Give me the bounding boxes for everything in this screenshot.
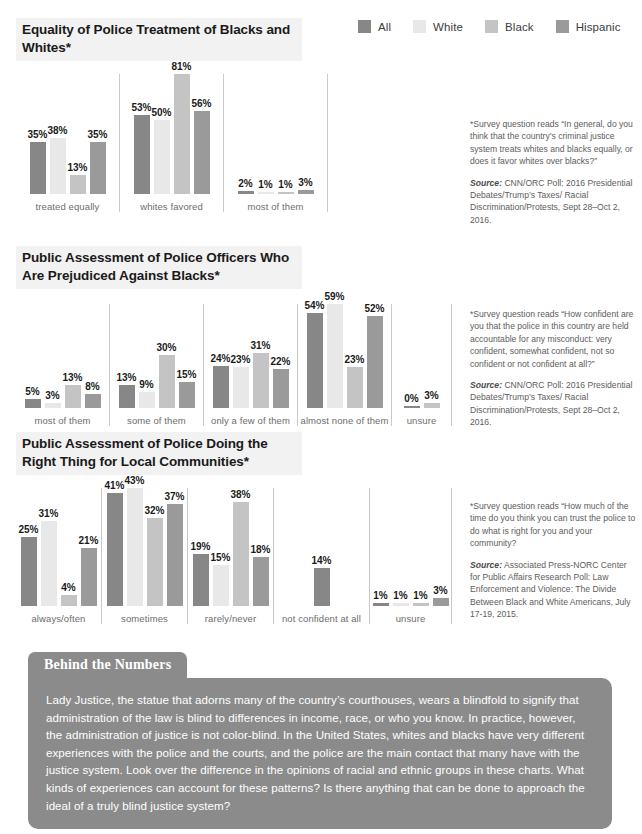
bar-black[interactable]: 23% bbox=[347, 355, 363, 408]
bar-rect[interactable] bbox=[213, 366, 229, 408]
bar-all[interactable]: 0% bbox=[404, 394, 420, 408]
bar-white[interactable]: 3% bbox=[45, 391, 61, 408]
bar-rect[interactable] bbox=[159, 355, 175, 408]
bar-rect[interactable] bbox=[367, 316, 383, 408]
bar-black[interactable]: 13% bbox=[65, 373, 81, 408]
bar-rect[interactable] bbox=[253, 353, 269, 408]
bar-rect[interactable] bbox=[30, 142, 46, 194]
bar-rect[interactable] bbox=[50, 138, 66, 194]
bar-rect[interactable] bbox=[41, 521, 57, 606]
bar-rect[interactable] bbox=[65, 385, 81, 408]
bar-rect[interactable] bbox=[45, 403, 61, 408]
bar-white[interactable]: 1% bbox=[393, 591, 409, 606]
bar-white[interactable]: 9% bbox=[139, 380, 155, 408]
bar-black[interactable]: 81% bbox=[174, 62, 190, 194]
bar-rect[interactable] bbox=[273, 369, 289, 408]
bar-white[interactable]: 59% bbox=[327, 292, 343, 408]
bar-rect[interactable] bbox=[81, 548, 97, 606]
bar-hispanic[interactable]: 52% bbox=[367, 304, 383, 408]
bar-white[interactable]: 1% bbox=[258, 180, 274, 194]
bar-rect[interactable] bbox=[61, 595, 77, 606]
bar-rect[interactable] bbox=[90, 142, 106, 194]
bar-hispanic[interactable]: 3% bbox=[298, 178, 314, 194]
bar-black[interactable]: 38% bbox=[233, 490, 249, 606]
bar-hispanic[interactable]: 21% bbox=[81, 536, 97, 606]
bar-all[interactable]: 25% bbox=[21, 525, 37, 606]
bar-rect[interactable] bbox=[238, 191, 254, 194]
bar-all[interactable]: 14% bbox=[314, 556, 330, 606]
bar-rect[interactable] bbox=[174, 74, 190, 194]
bar-value-label: 19% bbox=[191, 542, 211, 552]
bar-rect[interactable] bbox=[314, 568, 330, 606]
legend-item-white[interactable]: White bbox=[413, 20, 463, 33]
bar-rect[interactable] bbox=[233, 367, 249, 408]
bar-rect[interactable] bbox=[147, 518, 163, 606]
bar-rect[interactable] bbox=[21, 537, 37, 606]
bar-rect[interactable] bbox=[233, 502, 249, 606]
bar-hispanic[interactable]: 8% bbox=[85, 382, 101, 408]
bar-rect[interactable] bbox=[193, 554, 209, 606]
bar-hispanic[interactable]: 35% bbox=[90, 130, 106, 194]
bar-rect[interactable] bbox=[70, 175, 86, 194]
bar-hispanic[interactable]: 15% bbox=[179, 370, 195, 408]
bar-rect[interactable] bbox=[213, 565, 229, 606]
bar-white[interactable]: 50% bbox=[154, 108, 170, 194]
bar-hispanic[interactable]: 56% bbox=[194, 99, 210, 194]
bar-white[interactable]: 15% bbox=[213, 553, 229, 606]
bar-black[interactable]: 32% bbox=[147, 506, 163, 606]
bar-rect[interactable] bbox=[127, 488, 143, 606]
bar-rect[interactable] bbox=[194, 111, 210, 194]
bar-rect[interactable] bbox=[424, 403, 440, 408]
bar-all[interactable]: 1% bbox=[373, 591, 389, 606]
bar-rect[interactable] bbox=[167, 504, 183, 606]
bar-rect[interactable] bbox=[253, 557, 269, 606]
bar-all[interactable]: 5% bbox=[25, 387, 41, 408]
legend-item-hispanic[interactable]: Hispanic bbox=[556, 20, 621, 33]
bar-rect[interactable] bbox=[327, 304, 343, 408]
bar-all[interactable]: 24% bbox=[213, 354, 229, 408]
bar-all[interactable]: 19% bbox=[193, 542, 209, 606]
bar-white[interactable]: 31% bbox=[41, 509, 57, 606]
bar-black[interactable]: 30% bbox=[159, 343, 175, 408]
bar-rect[interactable] bbox=[393, 603, 409, 606]
bar-white[interactable]: 38% bbox=[50, 126, 66, 194]
group-label: almost none of them bbox=[298, 408, 391, 426]
bar-rect[interactable] bbox=[278, 192, 294, 194]
bar-rect[interactable] bbox=[25, 399, 41, 408]
bar-white[interactable]: 23% bbox=[233, 355, 249, 408]
bar-rect[interactable] bbox=[107, 493, 123, 606]
bar-rect[interactable] bbox=[119, 385, 135, 408]
bar-rect[interactable] bbox=[134, 115, 150, 194]
bar-rect[interactable] bbox=[404, 406, 420, 408]
bar-hispanic[interactable]: 37% bbox=[167, 492, 183, 606]
bar-black[interactable]: 3% bbox=[424, 391, 440, 408]
bar-hispanic[interactable]: 3% bbox=[433, 586, 449, 606]
bar-rect[interactable] bbox=[154, 120, 170, 194]
bar-rect[interactable] bbox=[179, 382, 195, 408]
legend-item-all[interactable]: All bbox=[358, 20, 391, 33]
bar-rect[interactable] bbox=[433, 598, 449, 606]
bar-rect[interactable] bbox=[307, 313, 323, 408]
bar-rect[interactable] bbox=[347, 367, 363, 408]
bar-rect[interactable] bbox=[85, 394, 101, 408]
bar-black[interactable]: 4% bbox=[61, 583, 77, 606]
legend-item-black[interactable]: Black bbox=[485, 20, 534, 33]
bar-all[interactable]: 35% bbox=[30, 130, 46, 194]
bar-white[interactable]: 43% bbox=[127, 476, 143, 606]
bar-hispanic[interactable]: 18% bbox=[253, 545, 269, 606]
bar-all[interactable]: 41% bbox=[107, 481, 123, 606]
bar-black[interactable]: 1% bbox=[413, 591, 429, 606]
bar-rect[interactable] bbox=[373, 603, 389, 606]
bar-all[interactable]: 2% bbox=[238, 179, 254, 194]
bar-black[interactable]: 1% bbox=[278, 180, 294, 194]
bar-hispanic[interactable]: 22% bbox=[273, 357, 289, 408]
bar-rect[interactable] bbox=[413, 603, 429, 606]
bar-rect[interactable] bbox=[139, 392, 155, 408]
bar-black[interactable]: 31% bbox=[253, 341, 269, 408]
bar-all[interactable]: 54% bbox=[307, 301, 323, 408]
bar-all[interactable]: 13% bbox=[119, 373, 135, 408]
bar-rect[interactable] bbox=[258, 192, 274, 194]
bar-all[interactable]: 53% bbox=[134, 103, 150, 194]
bar-rect[interactable] bbox=[298, 190, 314, 194]
bar-black[interactable]: 13% bbox=[70, 163, 86, 194]
